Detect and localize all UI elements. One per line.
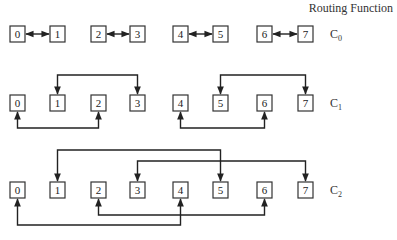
svg-text:0: 0 xyxy=(15,28,21,40)
svg-text:5: 5 xyxy=(218,28,224,40)
link-2-6 xyxy=(99,199,265,215)
svg-text:4: 4 xyxy=(178,184,184,196)
link-0-2 xyxy=(18,112,99,128)
svg-text:3: 3 xyxy=(135,97,141,109)
node-7: 7 xyxy=(298,95,313,111)
svg-text:7: 7 xyxy=(303,184,309,196)
svg-text:1: 1 xyxy=(55,97,61,109)
svg-text:4: 4 xyxy=(178,97,184,109)
node-5: 5 xyxy=(213,95,228,111)
cube-routing-diagram: 0 1 2 3 4 5 6 7 C0 0 1 2 3 4 5 6 7 C1 0 … xyxy=(0,0,397,240)
row-label-c1: C1 xyxy=(330,96,342,112)
svg-text:5: 5 xyxy=(218,184,224,196)
link-4-6 xyxy=(181,112,265,128)
node-0: 0 xyxy=(10,182,25,198)
node-0: 0 xyxy=(10,95,25,111)
link-1-3 xyxy=(58,75,138,94)
svg-text:7: 7 xyxy=(303,28,309,40)
link-5-7 xyxy=(221,75,306,94)
svg-text:2: 2 xyxy=(96,184,102,196)
node-3: 3 xyxy=(130,182,145,198)
node-3: 3 xyxy=(130,95,145,111)
node-7: 7 xyxy=(298,182,313,198)
node-4: 4 xyxy=(173,95,188,111)
node-5: 5 xyxy=(213,182,228,198)
node-2: 2 xyxy=(91,26,106,42)
svg-text:4: 4 xyxy=(178,28,184,40)
row-label-c0: C0 xyxy=(330,27,342,43)
svg-text:1: 1 xyxy=(55,184,61,196)
node-3: 3 xyxy=(130,26,145,42)
row-label-c2: C2 xyxy=(330,183,342,199)
node-1: 1 xyxy=(50,182,65,198)
svg-text:0: 0 xyxy=(15,97,21,109)
svg-text:6: 6 xyxy=(262,184,268,196)
svg-text:5: 5 xyxy=(218,97,224,109)
node-1: 1 xyxy=(50,26,65,42)
node-2: 2 xyxy=(91,182,106,198)
row-c2: 0 1 2 3 4 5 6 7 C2 xyxy=(10,150,342,225)
node-4: 4 xyxy=(173,26,188,42)
node-6: 6 xyxy=(257,26,272,42)
row-c0: 0 1 2 3 4 5 6 7 C0 xyxy=(10,26,342,43)
svg-text:6: 6 xyxy=(262,28,268,40)
node-5: 5 xyxy=(213,26,228,42)
svg-text:3: 3 xyxy=(135,184,141,196)
row-c1: 0 1 2 3 4 5 6 7 C1 xyxy=(10,75,342,128)
svg-text:3: 3 xyxy=(135,28,141,40)
link-3-7 xyxy=(138,161,306,181)
node-2: 2 xyxy=(91,95,106,111)
svg-text:7: 7 xyxy=(303,97,309,109)
svg-text:2: 2 xyxy=(96,97,102,109)
node-6: 6 xyxy=(257,95,272,111)
svg-text:2: 2 xyxy=(96,28,102,40)
svg-text:1: 1 xyxy=(55,28,61,40)
svg-text:0: 0 xyxy=(15,184,21,196)
node-6: 6 xyxy=(257,182,272,198)
node-7: 7 xyxy=(298,26,313,42)
node-0: 0 xyxy=(10,26,25,42)
node-1: 1 xyxy=(50,95,65,111)
node-4: 4 xyxy=(173,182,188,198)
link-1-5 xyxy=(58,150,221,181)
svg-text:6: 6 xyxy=(262,97,268,109)
